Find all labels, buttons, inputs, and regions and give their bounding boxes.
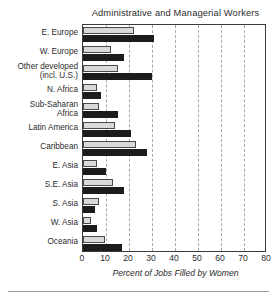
bar-light [83, 46, 111, 53]
bar-dark [83, 244, 122, 251]
bar-light [83, 179, 113, 186]
bar-light [83, 103, 99, 110]
bar-dark [83, 225, 97, 232]
category-label: Oceania [0, 237, 78, 246]
plot-area [82, 24, 266, 252]
category-label: W. Europe [0, 47, 78, 56]
category-axis-labels: E. EuropeW. EuropeOther developed (incl.… [0, 24, 78, 252]
category-label: S. Asia [0, 199, 78, 208]
bar-group [83, 121, 267, 140]
bar-light [83, 84, 97, 91]
bar-dark [83, 187, 124, 194]
bar-dark [83, 149, 147, 156]
x-tick-label: 60 [215, 253, 225, 263]
category-label: E. Asia [0, 161, 78, 170]
x-tick-label: 10 [100, 253, 110, 263]
x-axis-title: Percent of Jobs Filled by Women [76, 268, 275, 278]
bar-dark [83, 130, 131, 137]
category-label: Latin America [0, 123, 78, 132]
bar-group [83, 64, 267, 83]
bar-light [83, 65, 118, 72]
bar-group [83, 159, 267, 178]
divider [8, 291, 269, 292]
page-title: Administrative and Managerial Workers [76, 8, 275, 18]
bar-dark [83, 111, 118, 118]
x-axis-ticks: 01020304050607080 [82, 253, 266, 265]
bar-light [83, 27, 134, 34]
bar-dark [83, 206, 95, 213]
x-tick-label: 80 [261, 253, 271, 263]
category-label: Sub-Saharan Africa [0, 100, 78, 119]
bar-group [83, 83, 267, 102]
bar-light [83, 122, 115, 129]
x-tick-label: 50 [192, 253, 202, 263]
bar-dark [83, 35, 154, 42]
category-label: W. Asia [0, 218, 78, 227]
bar-group [83, 235, 267, 254]
x-tick-label: 40 [169, 253, 179, 263]
bar-light [83, 236, 105, 243]
category-label: E. Europe [0, 28, 78, 37]
chart-figure: Administrative and Managerial Workers E.… [0, 0, 277, 303]
bar-group [83, 45, 267, 64]
category-label: N. Africa [0, 85, 78, 94]
bar-light [83, 217, 91, 224]
bar-light [83, 198, 99, 205]
bar-group [83, 140, 267, 159]
bar-dark [83, 168, 106, 175]
bar-group [83, 26, 267, 45]
bar-group [83, 102, 267, 121]
x-tick-label: 70 [238, 253, 248, 263]
category-label: Caribbean [0, 142, 78, 151]
bar-group [83, 216, 267, 235]
bars-layer [83, 25, 265, 251]
bar-light [83, 141, 136, 148]
x-tick-label: 20 [123, 253, 133, 263]
x-tick-label: 0 [80, 253, 85, 263]
category-label: S.E. Asia [0, 180, 78, 189]
bar-dark [83, 54, 124, 61]
bar-dark [83, 73, 152, 80]
bar-light [83, 160, 97, 167]
bar-group [83, 197, 267, 216]
x-tick-label: 30 [146, 253, 156, 263]
bar-dark [83, 92, 101, 99]
category-label: Other developed (incl. U.S.) [0, 62, 78, 81]
bar-group [83, 178, 267, 197]
